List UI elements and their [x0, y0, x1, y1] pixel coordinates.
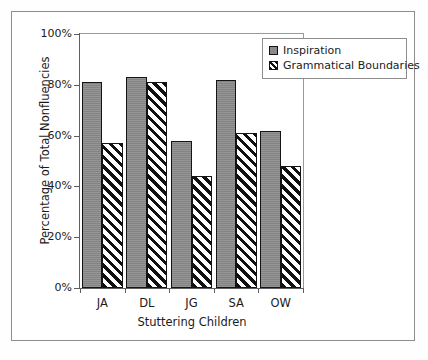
- legend-item-inspiration[interactable]: Inspiration: [269, 43, 400, 58]
- x-tick-label-ow: OW: [258, 297, 304, 310]
- x-tick-mark: [303, 288, 304, 293]
- legend-item-grammatical-boundaries[interactable]: Grammatical Boundaries: [269, 58, 400, 73]
- x-axis-line: [79, 288, 304, 289]
- x-tick-mark: [125, 288, 126, 293]
- bar-jg-inspiration: [171, 141, 192, 288]
- legend-label-inspiration: Inspiration: [283, 45, 341, 57]
- chart-legend: Inspiration Grammatical Boundaries: [262, 38, 407, 79]
- legend-swatch-icon-grammatical-boundaries: [269, 61, 278, 70]
- bar-dl-grammatical-boundaries: [147, 82, 168, 288]
- x-tick-mark: [80, 288, 81, 293]
- x-tick-mark: [214, 288, 215, 293]
- bar-ow-grammatical-boundaries: [281, 166, 302, 288]
- bar-ja-grammatical-boundaries: [102, 143, 123, 288]
- x-axis-title: Stuttering Children: [80, 316, 304, 329]
- y-axis-title: Percentage of Total Nonfluencies: [39, 31, 52, 271]
- x-tick-mark: [258, 288, 259, 293]
- x-tick-label-dl: DL: [124, 297, 170, 310]
- x-tick-label-ja: JA: [79, 297, 125, 310]
- x-tick-label-sa: SA: [213, 297, 259, 310]
- bar-sa-grammatical-boundaries: [236, 133, 257, 288]
- bar-dl-inspiration: [126, 77, 147, 288]
- chart-figure: 0%20%40%60%80%100% JADLJGSAOW Percentage…: [0, 0, 428, 360]
- bar-sa-inspiration: [216, 80, 237, 288]
- bar-jg-grammatical-boundaries: [192, 176, 213, 288]
- legend-swatch-icon-inspiration: [269, 46, 278, 55]
- y-tick-label: 0%: [12, 282, 72, 293]
- bar-ow-inspiration: [260, 131, 281, 288]
- legend-label-grammatical-boundaries: Grammatical Boundaries: [283, 60, 420, 72]
- bar-ja-inspiration: [82, 82, 103, 288]
- x-tick-label-jg: JG: [169, 297, 215, 310]
- x-tick-mark: [169, 288, 170, 293]
